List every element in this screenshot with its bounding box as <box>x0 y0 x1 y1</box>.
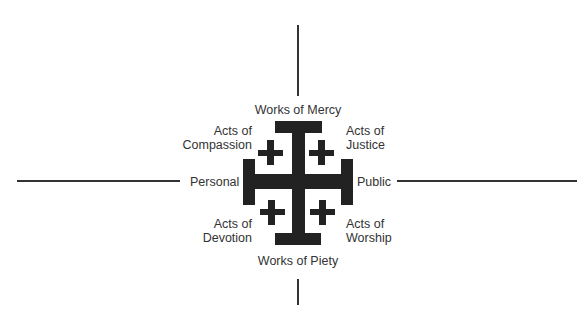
label-line: Devotion <box>180 231 252 245</box>
label-line: Worship <box>346 231 426 245</box>
label-acts-of-compassion: Acts of Compassion <box>180 124 252 152</box>
label-public: Public <box>357 175 397 189</box>
label-acts-of-devotion: Acts of Devotion <box>180 217 252 245</box>
label-works-of-mercy: Works of Mercy <box>248 103 348 117</box>
label-acts-of-justice: Acts of Justice <box>346 124 426 152</box>
small-cross-top-left <box>258 140 283 165</box>
label-line: Acts of <box>180 217 252 231</box>
cross-horizontal-arm <box>243 174 353 189</box>
small-cross-bottom-left <box>260 200 285 225</box>
label-line: Justice <box>346 138 426 152</box>
label-works-of-piety: Works of Piety <box>248 254 348 268</box>
label-line: Compassion <box>180 138 252 152</box>
small-cross-top-right <box>309 140 334 165</box>
label-line: Acts of <box>346 124 426 138</box>
label-acts-of-worship: Acts of Worship <box>346 217 426 245</box>
label-personal: Personal <box>190 175 240 189</box>
small-cross-bottom-right <box>310 200 335 225</box>
label-line: Acts of <box>180 124 252 138</box>
label-line: Acts of <box>346 217 426 231</box>
